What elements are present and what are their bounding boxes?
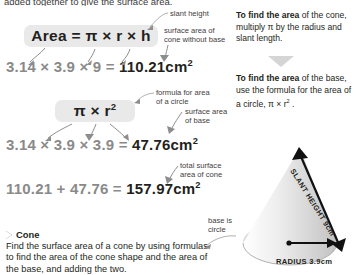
equation-2-result: 47.76cm: [132, 136, 193, 153]
cut-off-top-line: added together to give the surface area.: [4, 0, 224, 6]
section-body-text: Find the surface area of a cone by using…: [6, 241, 214, 275]
equation-cone-lateral: 3.14 × 3.9 × 9 = 110.21cm2: [6, 58, 193, 75]
circle-area-formula-pill: π × r2: [55, 100, 135, 122]
explainer-2-lead: To find the area: [236, 73, 299, 83]
annotation-cone-without-base: surface area of cone without base: [164, 26, 225, 45]
leader-circle-formula-head: [134, 99, 140, 104]
explainer-find-area-base: To find the area of the base, use the fo…: [236, 73, 358, 111]
equation-2-result-exponent: 2: [193, 136, 198, 146]
arrow-total-to-result3: [169, 166, 178, 180]
annotation-total-surface-area: total surface area of cone: [180, 161, 222, 180]
worksheet-page: added together to give the surface area.…: [0, 0, 362, 275]
radius-arrow-svg: [236, 140, 362, 275]
explainer-1-lead: To find the area: [236, 10, 299, 20]
radius-arrow-head: [327, 238, 337, 248]
explainer-2-tail: .: [290, 99, 295, 109]
radius-center-dot: [286, 240, 291, 245]
annotation-base-is-circle: base is circle: [208, 216, 232, 235]
section-heading-label: Cone: [16, 229, 39, 240]
equation-3-result: 157.97cm: [126, 180, 195, 197]
annotation-surface-area-base: surface area of base: [185, 107, 227, 126]
triangle-separator-icon: [268, 56, 294, 67]
equation-1-expression: 3.14 × 3.9 × 9 =: [6, 58, 115, 75]
arrow-base-area-to-result2-head: [167, 126, 175, 134]
arrow-base-area-to-result2: [171, 112, 182, 130]
arrow-note-to-result1: [165, 45, 168, 58]
radius-label: RADIUS 3.9cm: [276, 257, 332, 266]
explainer-find-area-cone: To find the area of the cone, multiply π…: [236, 10, 358, 45]
section-heading-cone: Cone: [6, 229, 39, 240]
equation-1-result-exponent: 2: [187, 58, 192, 68]
cone-surface-formula-text: Area = π × r × h: [31, 27, 151, 45]
annotation-circle-formula: formula for area of a circle: [156, 88, 210, 107]
equation-3-result-exponent: 2: [195, 180, 200, 190]
cone-surface-formula-pill: Area = π × r × h: [24, 25, 158, 47]
cone-diagram: SLANT HEIGHT 9cm RADIUS 3.9cm: [236, 140, 362, 275]
annotation-slant-height: slant height: [170, 9, 209, 18]
leader-circle-formula: [137, 93, 154, 101]
triangle-bullet-icon: [6, 231, 12, 239]
equation-3-expression: 110.21 + 47.76 =: [6, 180, 122, 197]
circle-area-formula-text: π × r2: [74, 101, 117, 120]
equation-base-area: 3.14 × 3.9 × 3.9 = 47.76cm2: [6, 136, 198, 153]
equation-total-area: 110.21 + 47.76 = 157.97cm2: [6, 180, 201, 197]
equation-1-result: 110.21cm: [119, 58, 187, 75]
equation-2-expression: 3.14 × 3.9 × 3.9 =: [6, 136, 128, 153]
